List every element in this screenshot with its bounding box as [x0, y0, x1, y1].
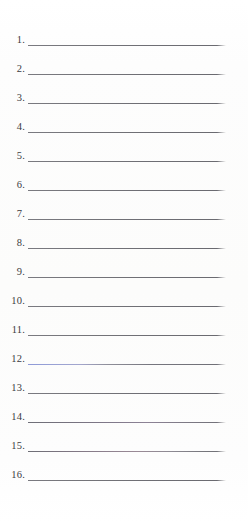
- list-item[interactable]: 12.: [0, 345, 248, 365]
- answer-blank[interactable]: [28, 121, 227, 133]
- answer-rule-line: [28, 422, 227, 423]
- list-item[interactable]: 9.: [0, 258, 248, 278]
- list-item-number: 1.: [0, 34, 25, 46]
- list-item-number: 6.: [0, 179, 25, 191]
- list-item[interactable]: 6.: [0, 171, 248, 191]
- list-item-number: 16.: [0, 469, 25, 481]
- list-item[interactable]: 5.: [0, 142, 248, 162]
- answer-rule-line: [28, 45, 227, 46]
- numbered-list: 1.2.3.4.5.6.7.8.9.10.11.12.13.14.15.16.: [0, 0, 248, 523]
- answer-blank[interactable]: [28, 266, 227, 278]
- list-item-number: 8.: [0, 237, 25, 249]
- list-item[interactable]: 2.: [0, 55, 248, 75]
- list-item-number: 10.: [0, 295, 25, 307]
- worksheet-page: 1.2.3.4.5.6.7.8.9.10.11.12.13.14.15.16.: [0, 0, 248, 523]
- answer-rule-line: [28, 248, 227, 249]
- list-item-number: 12.: [0, 353, 25, 365]
- answer-rule-line: [28, 306, 227, 307]
- answer-rule-line: [28, 190, 227, 191]
- list-item[interactable]: 16.: [0, 461, 248, 481]
- list-item[interactable]: 11.: [0, 316, 248, 336]
- answer-blank[interactable]: [28, 34, 227, 46]
- list-item-number: 9.: [0, 266, 25, 278]
- list-item-number: 5.: [0, 150, 25, 162]
- answer-blank[interactable]: [28, 237, 227, 249]
- answer-blank[interactable]: [28, 440, 227, 452]
- list-item[interactable]: 8.: [0, 229, 248, 249]
- answer-rule-line: [28, 277, 227, 278]
- answer-rule-line: [28, 219, 227, 220]
- list-item[interactable]: 1.: [0, 26, 248, 46]
- list-item-number: 14.: [0, 411, 25, 423]
- list-item[interactable]: 4.: [0, 113, 248, 133]
- list-item-number: 2.: [0, 63, 25, 75]
- answer-blank[interactable]: [28, 469, 227, 481]
- answer-blank[interactable]: [28, 324, 227, 336]
- answer-blank[interactable]: [28, 208, 227, 220]
- answer-blank[interactable]: [28, 150, 227, 162]
- list-item-number: 11.: [0, 324, 25, 336]
- answer-rule-line: [28, 480, 227, 481]
- answer-rule-line: [28, 161, 227, 162]
- answer-blank[interactable]: [28, 92, 227, 104]
- answer-rule-line: [28, 335, 227, 336]
- list-item[interactable]: 13.: [0, 374, 248, 394]
- list-item[interactable]: 15.: [0, 432, 248, 452]
- list-item[interactable]: 7.: [0, 200, 248, 220]
- list-item-number: 7.: [0, 208, 25, 220]
- answer-blank[interactable]: [28, 411, 227, 423]
- answer-blank[interactable]: [28, 63, 227, 75]
- answer-rule-line: [28, 364, 227, 365]
- answer-rule-line: [28, 74, 227, 75]
- list-item-number: 13.: [0, 382, 25, 394]
- answer-blank[interactable]: [28, 295, 227, 307]
- answer-rule-line: [28, 393, 227, 394]
- answer-blank[interactable]: [28, 353, 227, 365]
- list-item[interactable]: 10.: [0, 287, 248, 307]
- list-item-number: 3.: [0, 92, 25, 104]
- list-item-number: 4.: [0, 121, 25, 133]
- answer-blank[interactable]: [28, 382, 227, 394]
- answer-rule-line: [28, 451, 227, 452]
- answer-rule-line: [28, 103, 227, 104]
- answer-blank[interactable]: [28, 179, 227, 191]
- list-item[interactable]: 14.: [0, 403, 248, 423]
- list-item[interactable]: 3.: [0, 84, 248, 104]
- list-item-number: 15.: [0, 440, 25, 452]
- answer-rule-line: [28, 132, 227, 133]
